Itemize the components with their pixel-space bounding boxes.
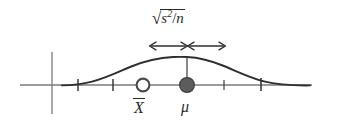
radical-sign: √: [152, 9, 160, 28]
right-arrow: [188, 42, 226, 50]
standard-error-label: √s2/n: [152, 9, 185, 26]
population-mean-marker: [180, 78, 195, 93]
sample-mean-label: X: [133, 98, 145, 116]
denominator-symbol: n: [176, 10, 184, 26]
sample-mean-symbol: X: [133, 98, 145, 116]
statistics-figure: √s2/n X μ: [0, 0, 337, 131]
radicand: s2/n: [160, 9, 185, 26]
sample-mean-marker: [137, 79, 150, 92]
population-mean-label: μ: [181, 99, 189, 115]
left-arrow: [150, 42, 188, 50]
